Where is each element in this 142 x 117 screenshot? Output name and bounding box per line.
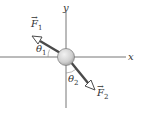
f1-label: →F1 [31, 19, 42, 32]
theta1-subscript: 1 [42, 49, 46, 57]
force-diagram: y x →F1 →F2 θ1 θ2 [0, 0, 142, 117]
f2-label: →F2 [97, 88, 108, 101]
theta1-label: θ1 [36, 44, 47, 57]
body-circle [58, 49, 75, 66]
vector-arrow-icon: → [97, 83, 104, 91]
y-axis-label: y [63, 3, 69, 13]
theta1-arc [48, 50, 50, 57]
theta2-label: θ2 [68, 74, 79, 87]
theta2-subscript: 2 [74, 79, 78, 87]
vector-arrow-icon: → [31, 14, 38, 22]
f2-subscript: 2 [104, 93, 108, 101]
x-axis-label: x [128, 52, 134, 62]
f1-subscript: 1 [38, 24, 42, 32]
diagram-graphics [0, 0, 142, 117]
